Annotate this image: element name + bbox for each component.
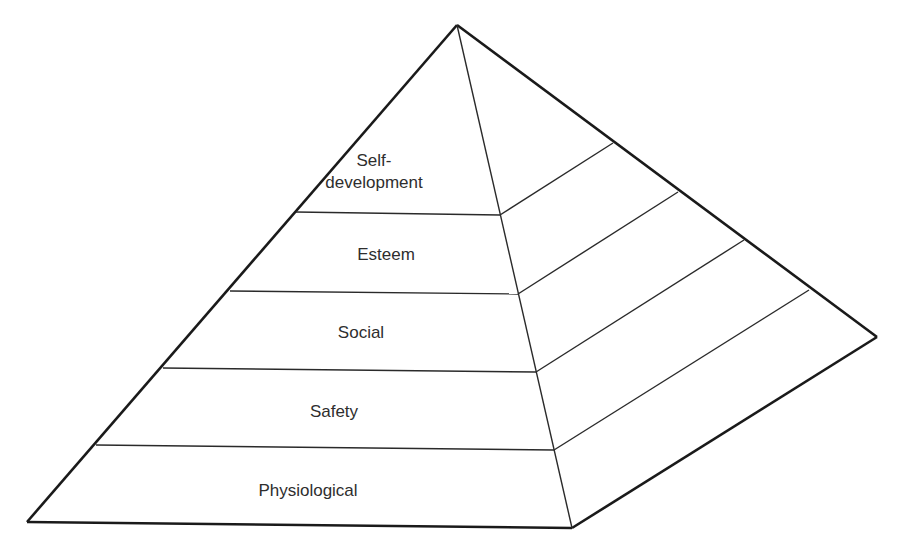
pyramid-base-front: [27, 522, 572, 528]
divider-front-2: [230, 291, 518, 294]
divider-side-4: [554, 290, 809, 450]
level-label-self-development-line2: development: [325, 172, 422, 194]
pyramid-right-edge: [457, 25, 877, 337]
level-label-physiological: Physiological: [258, 480, 357, 502]
level-label-social: Social: [338, 322, 384, 344]
pyramid-diagram: [0, 0, 899, 557]
divider-side-2: [518, 192, 678, 294]
pyramid-left-edge: [27, 25, 457, 522]
divider-side-1: [500, 143, 613, 215]
level-label-self-development-line1: Self-: [325, 150, 422, 172]
level-label-esteem: Esteem: [357, 244, 415, 266]
level-label-self-development: Self- development: [325, 150, 422, 194]
pyramid-center-edge: [457, 25, 572, 528]
divider-front-1: [296, 212, 500, 215]
pyramid-base-side: [572, 337, 877, 528]
divider-front-3: [163, 368, 536, 372]
divider-front-4: [96, 445, 554, 450]
divider-side-3: [536, 240, 744, 372]
level-label-safety: Safety: [310, 401, 358, 423]
